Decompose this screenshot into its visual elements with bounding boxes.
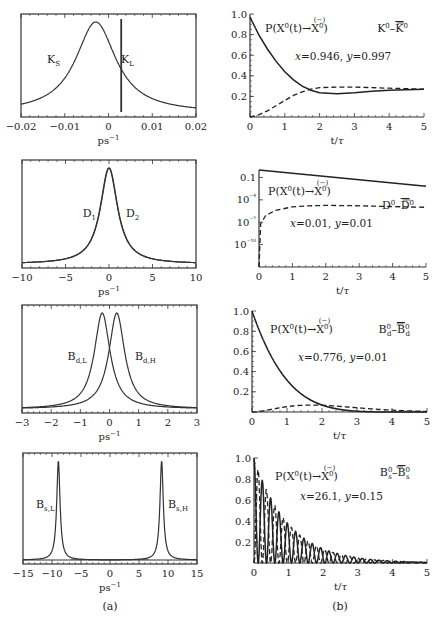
x-axis-label: t/τ	[333, 430, 346, 441]
x-axis-label: t/τ	[331, 135, 344, 146]
chart-a3: −3−2−10123ps−1Bd,LBd,H	[15, 305, 201, 442]
x-tick-label: 2	[323, 271, 329, 282]
x-tick-label: 0	[106, 272, 112, 283]
x-tick-label: −0.02	[6, 121, 37, 132]
x-tick-label: 2	[319, 416, 325, 427]
chart-a1: −0.02−0.0100.010.02ps−1KSKL	[6, 14, 207, 146]
x-tick-label: 5	[424, 567, 430, 578]
x-tick-label: 0	[107, 568, 113, 579]
x-tick-label: −15	[12, 568, 33, 579]
x-tick-label: 0.01	[141, 121, 163, 132]
x-tick-label: 2	[320, 567, 326, 578]
x-axis-label: ps−1	[99, 581, 121, 593]
x-tick-label: 1	[282, 121, 288, 132]
y-tick-label: 0.2	[235, 537, 251, 548]
x-tick-label: 4	[389, 567, 395, 578]
curve-label-bsh: Bs,H	[168, 498, 188, 513]
y-tick-label: 10⁻¹⁰	[234, 238, 256, 250]
y-tick-label: 0.6	[231, 50, 247, 61]
mixing-parameters: x=0.01, y=0.01	[290, 217, 373, 229]
x-tick-label: 3	[351, 121, 357, 132]
x-tick-label: −2	[44, 417, 59, 428]
optional-bar-mark: (−)	[319, 317, 331, 325]
plot-frame	[22, 305, 197, 413]
curve-mixed	[259, 205, 426, 267]
y-tick-label: 0.2	[233, 386, 249, 397]
x-tick-label: 0	[256, 271, 262, 282]
x-tick-label: 0	[105, 121, 111, 132]
x-tick-label: 5	[424, 416, 430, 427]
y-tick-label: 1.0	[233, 306, 249, 317]
optional-bar-mark: (−)	[324, 464, 336, 472]
chart-b2: 012345t/τ0.110⁻⁴10⁻⁷10⁻¹⁰P(X0(t)→X0)(−)x…	[234, 170, 429, 296]
mixing-parameters: x=26.1, y=0.15	[300, 490, 383, 502]
x-tick-label: 0	[247, 121, 253, 132]
x-axis-label: t/τ	[334, 581, 347, 592]
y-tick-label: 0.2	[231, 91, 247, 102]
caption-b: (b)	[332, 600, 348, 613]
curve-label-bdh: Bd,H	[135, 350, 156, 365]
optional-bar-mark: (−)	[317, 179, 329, 187]
mixing-parameters: x=0.946, y=0.997	[295, 50, 391, 62]
curve-label-d2: D2	[126, 207, 139, 222]
curve-label-bsl: Bs,L	[36, 498, 55, 513]
y-tick-label: 0.4	[231, 70, 247, 81]
x-axis-label: t/τ	[336, 285, 349, 296]
x-tick-label: 3	[354, 416, 360, 427]
curve-unmixed	[259, 170, 426, 186]
y-tick-label: 0.6	[233, 346, 249, 357]
x-tick-label: 0	[106, 417, 112, 428]
y-tick-label: 10⁻⁴	[237, 193, 256, 205]
y-tick-label: 0.8	[233, 326, 249, 337]
optional-bar-mark: (−)	[314, 16, 326, 24]
x-tick-label: 4	[389, 271, 395, 282]
x-tick-label: 1	[289, 271, 295, 282]
x-tick-label: 1	[284, 416, 290, 427]
x-tick-label: 1	[285, 567, 291, 578]
x-tick-label: 5	[421, 121, 427, 132]
meson-system-title: B0d–B0d	[378, 323, 410, 338]
x-tick-label: 5	[136, 568, 142, 579]
x-tick-label: 2	[316, 121, 322, 132]
curve-d2	[22, 168, 196, 263]
meson-system-title: K0–K0	[377, 22, 408, 35]
physics-figure: −0.02−0.0100.010.02ps−1KSKL012345t/τ0.20…	[0, 0, 441, 617]
x-tick-label: 3	[356, 271, 362, 282]
caption-a: (a)	[102, 600, 117, 613]
meson-system-title: D0–D0	[382, 199, 414, 212]
x-tick-label: 15	[191, 568, 204, 579]
curve-bdl	[22, 313, 197, 408]
curve-label-kl: KL	[121, 53, 134, 68]
x-tick-label: 2	[165, 417, 171, 428]
x-axis-label: ps−1	[99, 430, 121, 442]
curve-label-bdl: Bd,L	[68, 350, 88, 365]
chart-b1: 012345t/τ0.20.40.60.81.0P(X0(t)→X0)(−)x=…	[231, 9, 427, 147]
x-tick-label: 4	[386, 121, 392, 132]
plot-frame	[22, 160, 196, 268]
curve-d1	[22, 168, 196, 263]
x-tick-label: −5	[58, 272, 73, 283]
chart-a4: −15−10−5051015ps−1Bs,LBs,H	[12, 453, 203, 593]
x-tick-label: 5	[149, 272, 155, 283]
x-tick-label: −10	[11, 272, 32, 283]
curve-bdh	[22, 313, 197, 408]
x-tick-label: 5	[423, 271, 429, 282]
x-tick-label: −5	[74, 568, 89, 579]
chart-a2: −10−50510ps−1D1D2	[11, 160, 202, 297]
x-tick-label: −1	[73, 417, 88, 428]
y-tick-label: 0.8	[231, 29, 247, 40]
y-tick-label: 0.4	[235, 516, 251, 527]
x-tick-label: 4	[389, 416, 395, 427]
y-tick-label: 0.6	[235, 495, 251, 506]
meson-system-title: B0s–B0s	[380, 466, 410, 481]
x-tick-label: −10	[41, 568, 62, 579]
y-tick-label: 0.1	[240, 172, 256, 183]
y-tick-label: 0.4	[233, 366, 249, 377]
x-tick-label: 0.02	[185, 121, 207, 132]
x-axis-label: ps−1	[98, 285, 120, 297]
y-tick-label: 10⁻⁷	[237, 216, 256, 228]
y-tick-label: 0.8	[235, 474, 251, 485]
x-tick-label: 10	[190, 272, 203, 283]
mixing-parameters: x=0.776, y=0.01	[298, 351, 388, 363]
x-axis-label: ps−1	[98, 134, 120, 146]
